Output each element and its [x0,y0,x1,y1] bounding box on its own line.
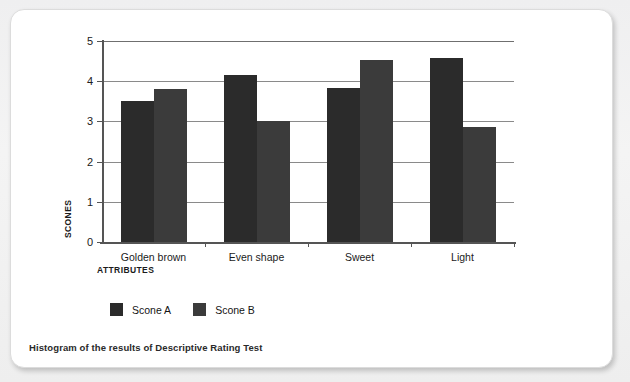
y-tick-mark [97,121,102,122]
chart-legend: Scone AScone B [110,303,255,316]
bar-scone-b-golden-brown [154,89,187,242]
bar-scone-b-sweet [360,60,393,242]
x-tick-mark [308,242,309,247]
y-tick-label: 3 [87,115,93,127]
y-tick-mark [97,242,102,243]
y-tick-label: 0 [87,236,93,248]
y-axis-line [102,40,104,243]
figure-caption: Histogram of the results of Descriptive … [29,342,263,353]
legend-label: Scone A [132,304,171,316]
y-tick-label: 2 [87,156,93,168]
x-label-sweet: Sweet [345,251,374,263]
page-background: 012345 Golden brownEven shapeSweetLight … [0,0,630,382]
x-tick-mark [411,242,412,247]
y-tick-mark [97,81,102,82]
bar-scone-b-even-shape [257,121,290,242]
bar-scone-a-even-shape [224,75,257,242]
plot-area: 012345 Golden brownEven shapeSweetLight [102,41,514,242]
legend-item-scone-a: Scone A [110,303,171,316]
y-tick-mark [97,41,102,42]
legend-swatch-icon [193,303,206,316]
y-tick-label: 5 [87,35,93,47]
gridline-5 [102,41,514,42]
bar-chart: 012345 Golden brownEven shapeSweetLight … [11,10,614,369]
y-tick-label: 4 [87,75,93,87]
x-axis-title: ATTRIBUTES [97,265,154,275]
bar-scone-a-light [430,58,463,242]
y-tick-label: 1 [87,196,93,208]
bar-scone-b-light [463,127,496,242]
bar-scone-a-sweet [327,88,360,242]
y-tick-mark [97,202,102,203]
figure-card: 012345 Golden brownEven shapeSweetLight … [10,9,613,368]
x-tick-mark [205,242,206,247]
x-tick-mark [514,242,515,247]
bar-scone-a-golden-brown [121,101,154,242]
legend-item-scone-b: Scone B [193,303,255,316]
y-tick-mark [97,162,102,163]
y-axis-title: SCONES [63,200,73,238]
legend-swatch-icon [110,303,123,316]
x-label-golden-brown: Golden brown [121,251,186,263]
legend-label: Scone B [215,304,255,316]
x-label-even-shape: Even shape [229,251,284,263]
x-label-light: Light [451,251,474,263]
